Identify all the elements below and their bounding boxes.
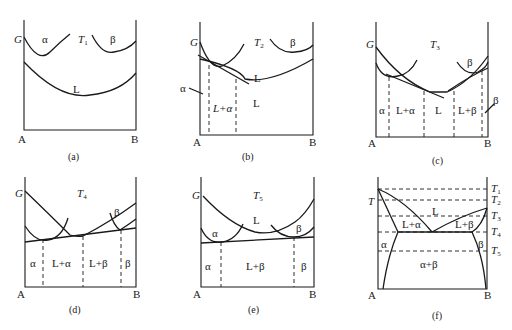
panel-e-caption: (e) [248, 304, 259, 316]
panel-b-temp-label: T2 [254, 36, 264, 50]
panel-a: G α T1 β L A B (a) [14, 20, 138, 163]
panel-f-t3-label: T3 [491, 209, 501, 223]
panel-f-t5-label: T5 [491, 244, 501, 258]
panel-e-region-beta: β [301, 260, 307, 272]
panel-b-alpha-pointer [189, 88, 203, 94]
panel-d-caption: (d) [69, 304, 81, 316]
panel-d-region-alpha: α [30, 257, 36, 269]
panel-b-a-label: A [193, 136, 201, 148]
panel-b-region-l: L [253, 97, 260, 109]
panel-d-g-curve-left [25, 191, 83, 236]
panel-c-caption: (c) [432, 155, 443, 167]
gibbs-energy-diagram-figure: G α T1 β L A B (a) G T2 β L α L+α L A B … [0, 0, 512, 330]
panel-b-b-label: B [309, 136, 316, 148]
panel-f-region-alpha-beta: α+β [420, 258, 438, 270]
panel-f-caption: (f) [432, 310, 442, 322]
panel-e-liquid-label: L [253, 214, 260, 226]
panel-d-a-label: A [17, 288, 25, 300]
panel-c-liquid-curve [376, 47, 488, 92]
panel-e-alpha-label: α [212, 227, 218, 239]
panel-e-a-label: A [193, 288, 201, 300]
panel-f-region-l: L [432, 205, 439, 217]
panel-b: G T2 β L α L+α L A B (b) [180, 22, 316, 163]
panel-f-region-beta: β [478, 238, 484, 250]
panel-e-region-l-beta: L+β [246, 260, 265, 272]
panel-f-t4-label: T4 [491, 225, 501, 239]
panel-c-a-label: A [368, 137, 376, 149]
panel-c-beta-pointer-label: β [493, 94, 499, 106]
panel-a-caption: (a) [68, 151, 79, 163]
panel-b-alpha-curve [200, 42, 244, 67]
panel-c-alpha-curve [376, 60, 417, 77]
panel-e: G T5 α L β α L+β β A B (e) [192, 177, 316, 316]
panel-d-region-l-alpha: L+α [52, 257, 71, 269]
panel-d-b-label: B [133, 288, 140, 300]
panel-f-b-label: B [484, 289, 491, 301]
panel-f-a-label: A [368, 289, 376, 301]
panel-c-region-l-alpha: L+α [396, 104, 415, 116]
panel-d-temp-label: T4 [77, 187, 87, 201]
panel-e-region-alpha: α [205, 260, 211, 272]
panel-c: G T3 β β α L+α L L+β A B (c) [366, 22, 499, 167]
panel-c-tangent-alpha [386, 74, 444, 98]
panel-b-alpha-label: α [180, 82, 186, 94]
panel-f-solidus-left [378, 189, 398, 232]
panel-c-beta-label: β [467, 56, 473, 68]
panel-a-beta-label: β [110, 33, 116, 45]
panel-b-common-tangent [198, 55, 249, 84]
panel-d-region-beta: β [125, 257, 131, 269]
panel-a-liquid-curve [24, 62, 136, 96]
panel-b-beta-label: β [290, 36, 296, 48]
panel-a-b-label: B [131, 133, 138, 145]
panel-a-a-label: A [18, 133, 26, 145]
panel-a-liquid-label: L [73, 83, 80, 95]
panel-a-g-label: G [14, 33, 22, 45]
panel-c-temp-label: T3 [430, 38, 440, 52]
panel-e-beta-curve [271, 225, 314, 237]
panel-e-alpha-curve [201, 224, 243, 242]
panel-a-alpha-label: α [42, 33, 48, 45]
panel-c-region-l: L [435, 104, 442, 116]
panel-d-region-l-beta: L+β [89, 257, 108, 269]
panel-a-temp-label: T1 [78, 33, 88, 47]
panel-f-region-alpha: α [381, 238, 387, 250]
panel-f: T T1 T2 T3 T4 T5 L L+α L+β α β α+β A B (… [368, 177, 501, 322]
panel-c-region-l-beta: L+β [458, 104, 477, 116]
panel-b-region-l-alpha: L+α [212, 102, 233, 114]
panel-d: G T4 β α L+α L+β β A B (d) [15, 177, 140, 316]
panel-c-b-label: B [484, 137, 491, 149]
panel-f-region-l-beta: L+β [455, 218, 474, 230]
panel-f-region-l-alpha: L+α [402, 218, 421, 230]
panel-e-temp-label: T5 [253, 189, 263, 203]
panel-f-t-axis-label: T [368, 195, 375, 207]
panel-d-beta-label: β [114, 206, 120, 218]
panel-e-beta-label: β [296, 222, 302, 234]
panel-e-common-tangent [201, 237, 314, 243]
panel-e-b-label: B [309, 288, 316, 300]
panel-b-g-label: G [190, 36, 198, 48]
panel-e-g-label: G [192, 189, 200, 201]
panel-b-caption: (b) [242, 151, 254, 163]
panel-c-g-label: G [366, 38, 374, 50]
panel-d-g-label: G [15, 187, 23, 199]
panel-c-region-alpha: α [379, 104, 385, 116]
panel-b-liquid-label: L [254, 72, 261, 84]
panel-f-axes [378, 177, 487, 289]
